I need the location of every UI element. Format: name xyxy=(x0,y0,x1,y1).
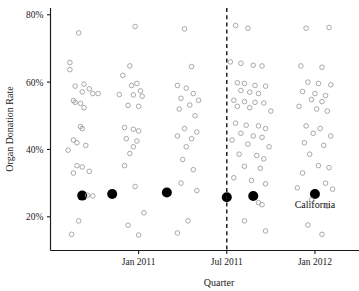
data-point-highlighted xyxy=(77,191,87,201)
x-tick-label: Jul 2011 xyxy=(211,257,243,267)
chart-canvas: 20%40%60%80% Jan 2011Jul 2011Jan 2012 Or… xyxy=(0,0,359,291)
x-axis-title: Quarter xyxy=(204,277,235,288)
y-tick-label: 20% xyxy=(26,212,44,222)
y-tick-label: 80% xyxy=(26,10,44,20)
chart-background xyxy=(0,0,359,291)
y-tick-label: 60% xyxy=(26,78,44,88)
data-point-highlighted xyxy=(248,191,258,201)
y-tick-label: 40% xyxy=(26,145,44,155)
y-axis-title: Organ Donation Rate xyxy=(4,86,15,172)
data-point-highlighted xyxy=(107,189,117,199)
x-tick-label: Jan 2012 xyxy=(298,257,332,267)
california-series-annotation: California xyxy=(295,199,336,210)
x-tick-label: Jan 2011 xyxy=(122,257,156,267)
organ-donation-scatter-chart: 20%40%60%80% Jan 2011Jul 2011Jan 2012 Or… xyxy=(0,0,359,291)
data-point-highlighted xyxy=(162,188,172,198)
